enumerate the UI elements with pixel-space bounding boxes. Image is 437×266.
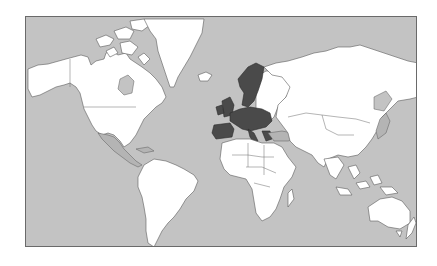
- tasmania: [396, 231, 402, 237]
- russia-asia: [264, 45, 417, 167]
- southeast-asia: [336, 165, 398, 195]
- north-america: [28, 19, 166, 147]
- india: [324, 157, 344, 179]
- madagascar: [288, 189, 294, 207]
- south-america: [138, 159, 198, 247]
- australia: [368, 197, 410, 229]
- iceland: [198, 72, 212, 81]
- map-svg: [26, 17, 417, 247]
- africa: [220, 139, 296, 221]
- world-map: World map highlighting European Union me…: [25, 16, 417, 247]
